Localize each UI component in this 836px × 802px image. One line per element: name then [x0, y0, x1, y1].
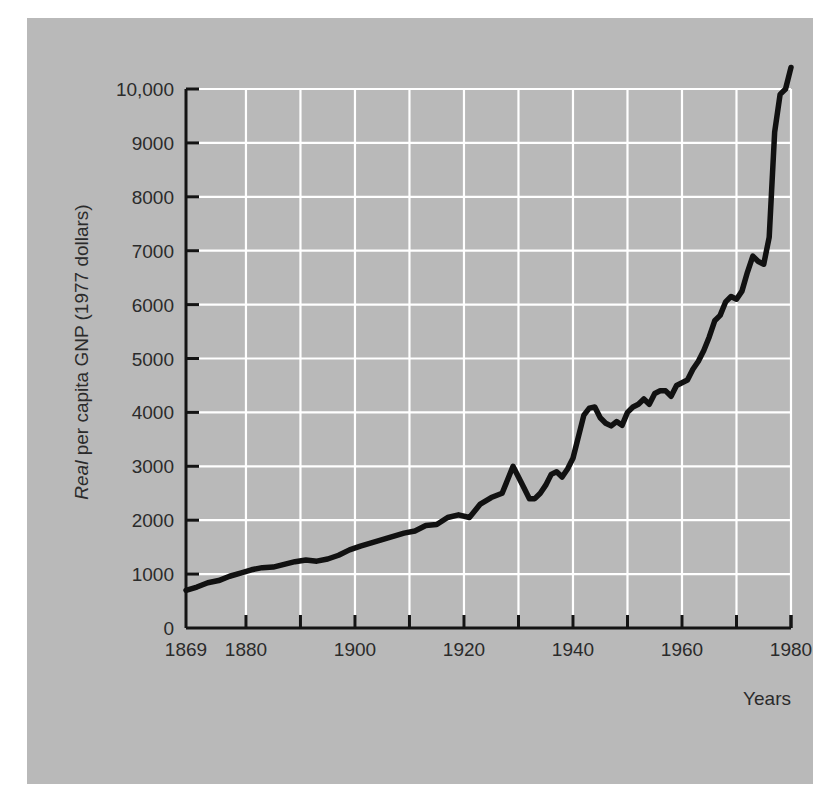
y-tick-label: 3000 — [132, 456, 174, 477]
x-tick-label: 1869 — [165, 639, 207, 660]
y-tick-label: 1000 — [132, 564, 174, 585]
x-tick-label: 1980 — [770, 639, 812, 660]
gnp-data-line — [186, 67, 791, 590]
y-tick-label: 2000 — [132, 510, 174, 531]
y-tick-label: 9000 — [132, 133, 174, 154]
figure-container: 010002000300040005000600070008000900010,… — [0, 0, 836, 802]
x-tick-label: 1920 — [443, 639, 485, 660]
y-tick-label: 6000 — [132, 295, 174, 316]
x-axis-ticks — [246, 615, 791, 628]
y-tick-label: 8000 — [132, 187, 174, 208]
y-axis-tick-labels: 010002000300040005000600070008000900010,… — [116, 79, 174, 639]
x-tick-label: 1900 — [334, 639, 376, 660]
y-tick-label: 7000 — [132, 241, 174, 262]
y-axis-label: Real per capita GNP (1977 dollars) — [71, 204, 92, 499]
y-tick-label: 4000 — [132, 402, 174, 423]
y-tick-label: 5000 — [132, 349, 174, 370]
x-axis-title: Years — [743, 688, 791, 709]
y-tick-label: 10,000 — [116, 79, 174, 100]
y-axis-ticks — [186, 89, 199, 574]
y-tick-label: 0 — [163, 618, 174, 639]
gnp-line-chart: 010002000300040005000600070008000900010,… — [0, 0, 836, 802]
x-tick-label: 1940 — [552, 639, 594, 660]
x-tick-label: 1880 — [225, 639, 267, 660]
x-axis-tick-labels: 1869188019001920194019601980 — [165, 639, 812, 660]
x-tick-label: 1960 — [661, 639, 703, 660]
